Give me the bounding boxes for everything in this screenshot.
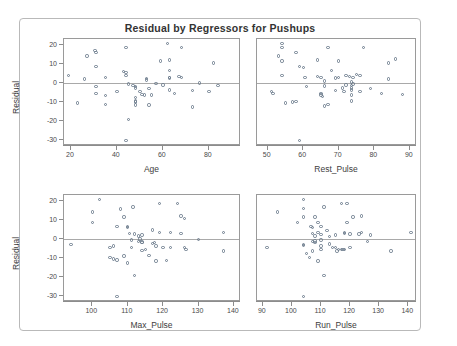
x-axis-title: Run_Pulse <box>256 320 416 330</box>
x-axis-title: Age <box>63 164 240 174</box>
x-tick-label: 50 <box>263 151 271 158</box>
data-point <box>294 100 297 103</box>
x-tick <box>338 146 339 150</box>
data-point <box>168 69 171 72</box>
data-point <box>69 243 72 246</box>
data-point <box>94 51 97 54</box>
data-point <box>328 242 331 245</box>
x-tick <box>162 146 163 150</box>
x-tick-label: 90 <box>405 151 413 158</box>
y-axis: -30-20-1001020 <box>29 38 63 145</box>
data-point <box>140 241 143 244</box>
x-tick <box>302 146 303 150</box>
x-tick-label: 60 <box>298 151 306 158</box>
x-tick-label: 40 <box>112 151 120 158</box>
data-point <box>161 83 164 86</box>
data-point <box>94 92 97 95</box>
y-tick-label: -10 <box>47 98 57 105</box>
data-point <box>280 46 283 49</box>
zero-reference-line <box>257 83 415 84</box>
data-point <box>124 139 127 142</box>
data-point <box>144 248 147 251</box>
x-tick-label: 80 <box>204 151 212 158</box>
chart-root: Residual by Regressors for Pushups -30-2… <box>0 0 457 346</box>
x-tick <box>407 302 408 306</box>
zero-reference-line <box>64 239 239 240</box>
data-point <box>362 46 365 49</box>
x-tick-label: 100 <box>285 307 297 314</box>
y-tick <box>59 139 63 140</box>
x-tick-label: 20 <box>66 151 74 158</box>
x-tick-label: 120 <box>156 307 168 314</box>
data-point <box>366 240 369 243</box>
data-point <box>122 254 125 257</box>
x-tick <box>291 302 292 306</box>
data-point <box>350 99 353 102</box>
x-tick-label: 120 <box>343 307 355 314</box>
data-point <box>173 92 176 95</box>
data-point <box>319 248 322 251</box>
data-point <box>330 69 333 72</box>
x-tick <box>233 302 234 306</box>
data-point <box>409 231 412 234</box>
data-point <box>302 207 305 210</box>
data-point <box>319 225 322 228</box>
data-point <box>350 93 353 96</box>
data-point <box>344 83 347 86</box>
data-point <box>119 207 122 210</box>
x-tick-label: 60 <box>158 151 166 158</box>
data-point <box>387 77 390 80</box>
data-point <box>168 76 171 79</box>
data-point <box>134 96 137 99</box>
data-point <box>151 228 154 231</box>
y-tick-label: 0 <box>53 78 57 85</box>
data-point <box>147 254 150 257</box>
data-point <box>294 51 297 54</box>
data-point <box>133 274 136 277</box>
data-point <box>323 84 326 87</box>
data-point <box>298 139 301 142</box>
scatter-panel-age: -30-20-1001020Residual20406080Age <box>63 38 240 179</box>
data-point <box>343 248 346 251</box>
x-tick-label: 100 <box>85 307 97 314</box>
data-point <box>127 82 130 85</box>
data-point <box>387 61 390 64</box>
data-point <box>360 214 363 217</box>
y-tick-label: -30 <box>47 292 57 299</box>
x-tick-label: 110 <box>314 307 325 314</box>
data-point <box>303 76 306 79</box>
y-axis-title: Residual <box>11 236 21 269</box>
data-point <box>158 202 161 205</box>
y-tick-label: -30 <box>47 136 57 143</box>
data-point <box>337 76 340 79</box>
x-axis-line <box>256 145 416 146</box>
x-tick <box>70 146 71 150</box>
data-point <box>305 85 308 88</box>
plot-area <box>256 194 416 301</box>
x-tick <box>409 146 410 150</box>
data-point <box>319 238 322 241</box>
x-tick-label: 90 <box>258 307 266 314</box>
x-tick <box>378 302 379 306</box>
data-point <box>128 232 131 235</box>
data-point <box>169 246 172 249</box>
x-tick <box>262 302 263 306</box>
data-point <box>124 46 127 49</box>
data-point <box>302 198 305 201</box>
data-point <box>165 259 168 262</box>
data-point <box>222 231 225 234</box>
data-point <box>168 58 171 61</box>
y-tick <box>59 120 63 121</box>
data-point <box>150 93 153 96</box>
data-point <box>302 215 305 218</box>
data-point <box>168 88 171 91</box>
data-point <box>126 261 129 264</box>
data-point <box>313 234 316 237</box>
x-tick <box>320 302 321 306</box>
data-point <box>198 81 201 84</box>
data-point <box>183 217 186 220</box>
data-point <box>104 76 107 79</box>
data-point <box>134 103 137 106</box>
y-tick <box>59 44 63 45</box>
data-point <box>85 54 88 57</box>
